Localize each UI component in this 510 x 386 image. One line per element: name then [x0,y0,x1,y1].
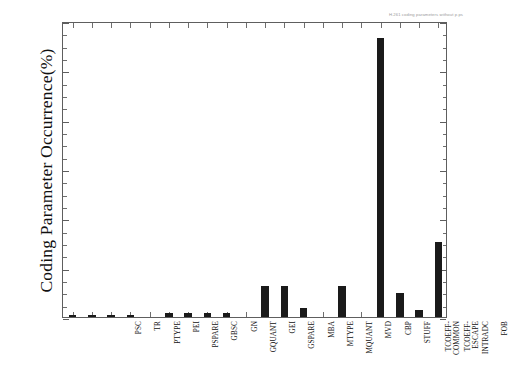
y-tick-minor [63,282,67,283]
y-tick-major [63,72,69,73]
x-tick-label: STUFF [425,321,433,383]
x-tick [361,23,362,28]
plot-area: 0102030405060 [62,22,447,318]
x-tick-label: GBSC [232,321,240,383]
bar [300,308,308,317]
x-tick [381,23,382,28]
y-tick-minor [63,134,67,135]
y-tick-minor [63,183,67,184]
bar [396,293,404,317]
y-tick-minor [63,109,67,110]
x-tick [73,23,74,28]
bar [107,315,115,317]
y-tick-minor [443,60,447,61]
x-tick-label: PTYPE [175,321,183,383]
y-tick-major [63,220,69,221]
x-tick-label: GEI [290,321,298,383]
x-tick [323,312,324,317]
y-tick-minor [63,85,67,86]
bar [88,315,96,317]
y-tick-minor [443,282,447,283]
y-tick-minor [63,35,67,36]
y-tick-minor [443,48,447,49]
x-tick-label: GQUANT [271,321,279,383]
y-tick-minor [63,294,67,295]
y-tick-major [440,319,446,320]
x-tick [361,312,362,317]
bar [69,315,77,317]
x-tick [304,23,305,28]
y-tick-major [440,220,446,221]
bar [377,38,385,317]
x-tick [227,23,228,28]
y-tick-minor [443,35,447,36]
x-tick-label: GN [252,321,260,383]
y-tick-minor [443,233,447,234]
y-tick-minor [443,257,447,258]
y-tick-minor [63,60,67,61]
y-tick-minor [443,208,447,209]
y-tick-minor [63,257,67,258]
x-tick-label: PEI [194,321,202,383]
y-tick-major [63,122,69,123]
y-tick-minor [443,146,447,147]
bar [127,315,135,317]
y-tick-minor [443,134,447,135]
y-tick-minor [443,109,447,110]
y-tick-minor [63,245,67,246]
bar [415,310,423,317]
y-tick-minor [443,307,447,308]
x-tick [207,23,208,28]
x-tick [169,23,170,28]
x-tick-label: PSC [136,321,144,383]
x-tick [323,23,324,28]
x-tick [246,312,247,317]
y-tick-minor [63,196,67,197]
x-tick [342,23,343,28]
y-tick-major [63,319,69,320]
x-tick-label: GSPARE [309,321,317,383]
y-tick-minor [63,233,67,234]
x-tick-label: MTYPE [348,321,356,383]
y-tick-minor [63,48,67,49]
x-tick-label: MVD [386,321,394,383]
y-axis-title: Coding Parameter Occurrence(%) [36,21,57,321]
bar [338,286,346,317]
x-tick [188,23,189,28]
y-tick-major [440,171,446,172]
x-tick [400,23,401,28]
x-tick [419,23,420,28]
y-tick-major [440,122,446,123]
x-tick [150,23,151,28]
x-tick-label: CBP [406,321,414,383]
x-tick [438,23,439,28]
x-tick [246,23,247,28]
y-tick-minor [443,245,447,246]
x-tick-label: TR [155,321,163,383]
y-tick-minor [443,85,447,86]
x-tick [111,23,112,28]
bar [204,313,212,317]
x-tick-label: MBA [329,321,337,383]
y-tick-minor [63,307,67,308]
y-tick-minor [443,159,447,160]
y-tick-minor [63,159,67,160]
bar [184,313,192,317]
y-tick-major [440,23,446,24]
x-tick-label: PSPARE [213,321,221,383]
y-tick-minor [443,97,447,98]
y-tick-minor [443,183,447,184]
y-tick-minor [443,294,447,295]
bar [223,313,231,317]
x-tick-label: TCOEFF-COMMON [446,321,461,383]
x-tick-label: INTRADC [483,321,491,383]
x-tick-label: FOB [502,321,510,383]
y-tick-minor [63,208,67,209]
x-tick [265,23,266,28]
x-tick-label: TCOEFF-ESCAPE [465,321,480,383]
x-tick [284,23,285,28]
bar [281,286,289,317]
y-tick-minor [63,97,67,98]
bar [165,313,173,317]
